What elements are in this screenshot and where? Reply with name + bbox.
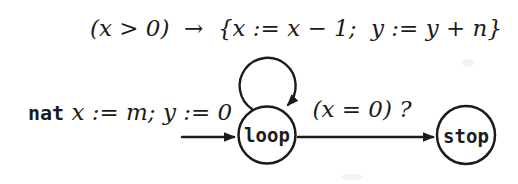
scan-smudge	[462, 59, 474, 67]
state-machine-diagram: (x > 0) → {x := x − 1; y := y + n} nat x…	[0, 0, 518, 184]
state-label-loop: loop	[244, 124, 290, 146]
diagram-canvas: (x > 0) → {x := x − 1; y := y + n} nat x…	[0, 0, 518, 184]
self-loop-label: (x > 0) → {x := x − 1; y := y + n}	[90, 15, 502, 41]
guard-label: (x = 0) ?	[312, 96, 412, 122]
scan-smudge	[341, 174, 363, 180]
init-label: nat x := m; y := 0	[28, 99, 232, 125]
init-assignments: x := m; y := 0	[64, 99, 232, 125]
state-label-stop: stop	[443, 125, 489, 147]
init-keyword: nat	[28, 101, 64, 125]
